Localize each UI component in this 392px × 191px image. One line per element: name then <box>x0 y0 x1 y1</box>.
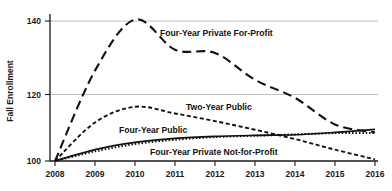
series-annotation-two-year-public: Two-Year Public <box>186 102 252 112</box>
data-series-group <box>55 19 375 161</box>
y-axis-title: Fall Enrollment <box>5 60 15 122</box>
x-tick-label-2013: 2013 <box>246 169 265 179</box>
x-tickmarks <box>55 161 375 166</box>
x-tick-label-2009: 2009 <box>86 169 105 179</box>
series-annotation-not-for-profit: Four-Year Private Not-for-Profit <box>150 147 278 157</box>
y-tick-label-120: 120 <box>27 90 41 100</box>
x-tick-label-2016: 2016 <box>366 169 385 179</box>
x-tick-label-2012: 2012 <box>206 169 225 179</box>
chart-canvas: 140 120 100 Fall Enrollment 2008 2009 20… <box>0 0 392 191</box>
series-line-four-year-private-for-profit <box>55 19 375 161</box>
y-tick-label-100: 100 <box>27 156 41 166</box>
x-tick-label-2014: 2014 <box>286 169 305 179</box>
x-tick-label-2010: 2010 <box>126 169 145 179</box>
y-tick-label-140: 140 <box>27 16 41 26</box>
series-annotation-four-year-public: Four-Year Public <box>119 125 188 135</box>
x-tick-label-2015: 2015 <box>326 169 345 179</box>
y-tickmarks <box>45 21 50 161</box>
enrollment-line-chart: 140 120 100 Fall Enrollment 2008 2009 20… <box>0 0 392 191</box>
x-tick-label-2011: 2011 <box>166 169 185 179</box>
series-annotation-for-profit: Four-Year Private For-Profit <box>160 28 273 38</box>
x-tick-label-2008: 2008 <box>46 169 65 179</box>
